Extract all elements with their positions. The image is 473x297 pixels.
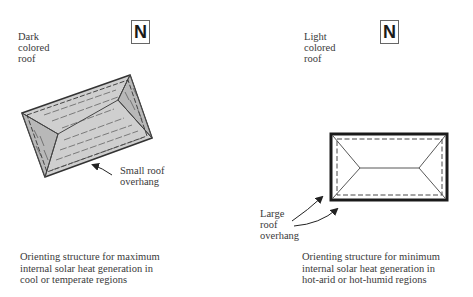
north-indicator-right: N xyxy=(380,20,399,44)
light-roof-plan xyxy=(331,134,447,200)
dark-roof-plan xyxy=(22,75,152,177)
north-indicator-left: N xyxy=(131,20,150,44)
small-overhang-arrow xyxy=(93,165,112,175)
caption-right: Orienting structure for minimum internal… xyxy=(302,251,440,286)
caption-left: Orienting structure for maximum internal… xyxy=(20,251,160,286)
small-overhang-label: Small roof overhang xyxy=(120,165,165,187)
light-roof-label: Light colored roof xyxy=(304,31,336,64)
dark-roof-label: Dark colored roof xyxy=(18,31,50,64)
large-overhang-arrow-2 xyxy=(294,209,337,226)
large-overhang-label: Large roof overhang xyxy=(260,208,299,241)
